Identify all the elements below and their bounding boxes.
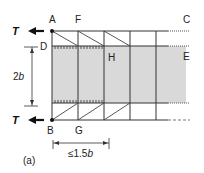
figure-caption: (a) [23,155,35,166]
node-A-dot [50,29,54,33]
label-E: E [183,51,190,62]
label-A: A [49,14,56,25]
label-D: D [40,41,47,52]
label-2b: 2b [13,71,25,82]
label-H: H [108,52,115,63]
label-spacing: ≤1.5b [68,148,93,159]
label-force-top: T [12,25,20,37]
label-C: C [183,14,190,25]
label-G: G [75,125,83,136]
truss-diagram: A F C D E H B G T T 2b ≤1.5b (a) [0,0,204,173]
label-F: F [75,14,81,25]
label-force-bottom: T [12,114,20,126]
label-B: B [47,125,54,136]
node-B-dot [50,118,54,122]
arrow-top-icon [28,27,44,35]
dimension-2b [24,47,38,106]
arrow-bottom-icon [28,116,44,124]
shaded-region [52,46,186,103]
